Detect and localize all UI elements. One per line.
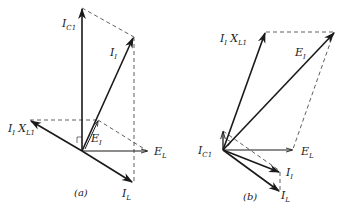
vectors-b [223,33,334,191]
label-el-a: EL [153,145,167,160]
construction-lines-a [30,8,146,183]
vectors-a [31,9,147,182]
label-ei-a: EI [90,132,102,147]
label-ic1-a: IC1 [61,17,76,32]
vector-il-b [223,150,279,191]
diagram-b: IIXL1 EI IC1 EL II IL (b) [197,32,334,204]
label-el-b: EL [300,145,314,160]
label-ii-a: II [109,46,117,61]
label-iixl1-b: IIXL1 [219,32,247,47]
vector-ii-b [223,150,279,172]
label-iixl1-a: IIXL1 [7,122,35,137]
label-ic1-b: IC1 [197,144,212,159]
diagram-a: IC1 II IIXL1 EI EL IL (a) [7,8,167,202]
label-ii-b: II [285,166,293,181]
construction-lines-b [223,32,334,191]
vector-il-a [82,151,132,182]
caption-b: (b) [243,191,257,202]
phasor-diagrams: IC1 II IIXL1 EI EL IL (a) IIXL1 EI IC1 E… [0,0,340,211]
label-il-a: IL [121,187,131,202]
vector-iixl1-a [31,121,82,151]
vector-ii-a [82,38,133,151]
caption-a: (a) [74,187,88,198]
vector-iixl1-b [223,33,265,150]
label-ei-b: EI [294,46,306,61]
label-il-b: IL [280,189,290,204]
vector-ei-b [223,33,334,150]
